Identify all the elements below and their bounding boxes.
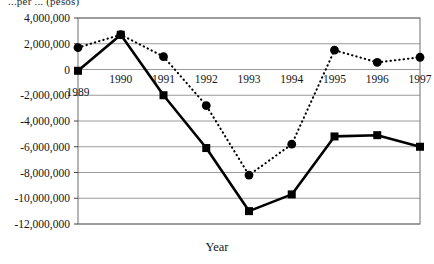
x-axis-tick-label: 1990 [109, 73, 132, 85]
y-axis-tick-label: 2,000,000 [0, 38, 70, 50]
x-axis-tick-label: 1992 [195, 73, 218, 85]
series-line-solid-square-series [78, 35, 420, 211]
data-point-marker [202, 144, 210, 152]
data-point-marker [159, 52, 168, 61]
data-point-marker [202, 101, 211, 110]
data-point-marker [74, 43, 83, 52]
x-axis-tick-label: 1994 [280, 73, 303, 85]
data-point-marker [373, 58, 382, 67]
data-point-marker [160, 91, 168, 99]
x-axis-title: Year [0, 240, 434, 255]
y-axis-tick-label: 4,000,000 [0, 12, 70, 24]
data-point-marker [331, 132, 339, 140]
y-axis-tick-label: -4,000,000 [0, 115, 70, 127]
data-point-marker [117, 31, 125, 39]
data-point-marker [74, 67, 82, 75]
chart-container: ...per ... (pesos) 4,000,0002,000,0000-2… [0, 0, 434, 264]
x-axis-tick-label: 1991 [152, 73, 175, 85]
series-line-dotted-circle-series [78, 35, 420, 175]
y-axis-tick-label: -10,000,000 [0, 192, 70, 204]
data-point-marker [287, 140, 296, 149]
y-axis-tick-label: 0 [0, 64, 70, 76]
y-axis-tick-label: -12,000,000 [0, 218, 70, 230]
data-point-marker [245, 207, 253, 215]
y-axis-tick-label: -2,000,000 [0, 89, 70, 101]
y-axis-tick-label: -8,000,000 [0, 167, 70, 179]
x-axis-tick-label: 1993 [238, 73, 261, 85]
data-point-marker [416, 53, 425, 62]
data-point-marker [373, 131, 381, 139]
data-point-marker [330, 46, 339, 55]
y-axis-tick-label: -6,000,000 [0, 141, 70, 153]
x-axis-tick-label: 1997 [409, 73, 432, 85]
data-point-marker [245, 171, 254, 180]
x-axis-tick-label: 1995 [323, 73, 346, 85]
data-point-marker [416, 143, 424, 151]
x-axis-tick-label: 1996 [366, 73, 389, 85]
data-point-marker [288, 190, 296, 198]
x-axis-tick-label: 1989 [67, 86, 90, 98]
